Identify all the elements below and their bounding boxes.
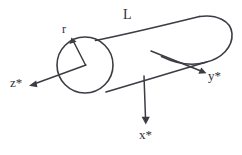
length-label: L (123, 8, 132, 22)
z-axis-arrowhead (29, 81, 37, 88)
radius-arrow-shaft (74, 42, 86, 66)
x-axis-arrowhead (142, 117, 150, 125)
cylinder-diagram-svg (0, 0, 242, 155)
radius-label: r (62, 23, 66, 35)
cylinder-top-edge (96, 17, 200, 41)
cylinder-right-cap-outer (200, 16, 233, 62)
y-axis-shaft (151, 51, 201, 71)
z-axis-shaft (34, 65, 86, 84)
y-axis-label: y* (208, 69, 221, 82)
z-axis-label: z* (10, 76, 22, 89)
cylinder-diagram-canvas: L r z* y* x* (0, 0, 242, 155)
x-axis-shaft (144, 76, 146, 118)
x-axis-label: x* (139, 128, 152, 141)
